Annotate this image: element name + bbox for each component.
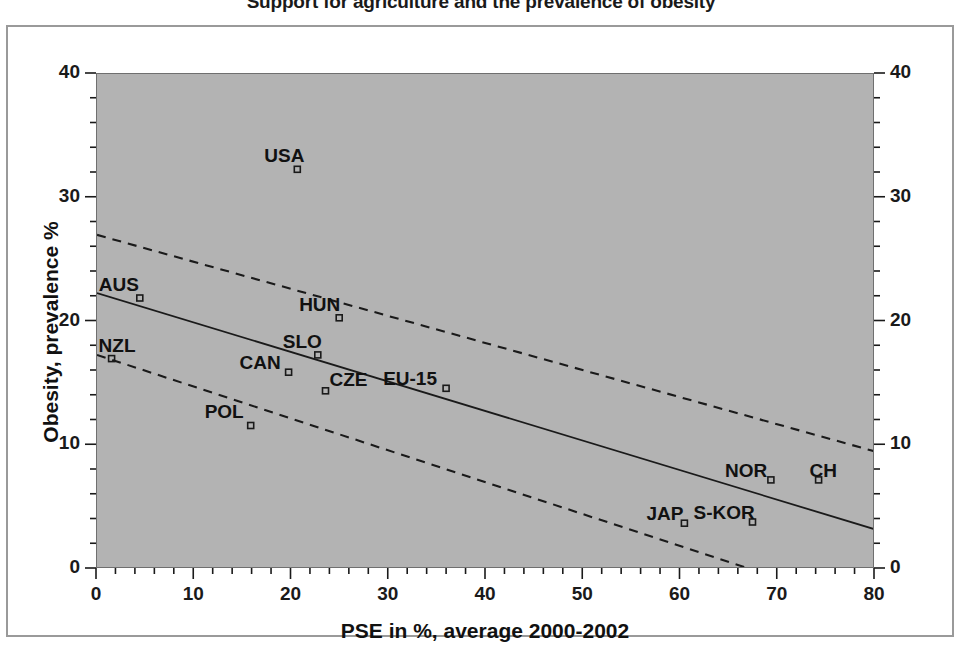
point-label-cze: CZE	[330, 370, 368, 389]
x-tick-label-40: 40	[460, 583, 510, 605]
data-point-hun[interactable]	[336, 315, 342, 321]
x-axis-title: PSE in %, average 2000-2002	[96, 619, 874, 643]
plot-canvas	[97, 74, 874, 568]
x-tick-label-80: 80	[849, 583, 899, 605]
point-label-aus: AUS	[99, 275, 139, 294]
data-point-usa[interactable]	[294, 166, 300, 172]
point-label-can: CAN	[240, 353, 281, 372]
y-tick-label-right-0: 0	[890, 556, 934, 578]
point-label-eu-15: EU-15	[383, 369, 437, 388]
point-label-ch: CH	[810, 461, 837, 480]
x-tick-label-60: 60	[655, 583, 705, 605]
y-tick-label-right-40: 40	[890, 61, 934, 83]
x-tick-label-50: 50	[557, 583, 607, 605]
x-tick-label-30: 30	[363, 583, 413, 605]
point-label-s-kor: S-KOR	[693, 503, 754, 522]
y-tick-label-left-0: 0	[36, 556, 80, 578]
point-label-usa: USA	[264, 146, 304, 165]
data-point-can[interactable]	[286, 369, 292, 375]
data-point-aus[interactable]	[137, 295, 143, 301]
y-tick-label-right-20: 20	[890, 309, 934, 331]
data-point-eu-15[interactable]	[443, 385, 449, 391]
x-tick-label-70: 70	[752, 583, 802, 605]
data-point-nor[interactable]	[768, 477, 774, 483]
plot-area	[96, 73, 874, 568]
chart-title: Support for agriculture and the prevalen…	[0, 0, 962, 13]
point-label-slo: SLO	[283, 332, 322, 351]
point-label-jap: JAP	[646, 504, 683, 523]
y-tick-label-left-40: 40	[36, 61, 80, 83]
figure-frame: 00101020203030404001020304050607080USAAU…	[6, 25, 954, 637]
x-tick-label-10: 10	[168, 583, 218, 605]
point-label-pol: POL	[205, 402, 244, 421]
y-axis-title: Obesity, prevalence %	[39, 122, 63, 542]
point-label-nzl: NZL	[99, 336, 136, 355]
point-label-nor: NOR	[725, 461, 767, 480]
point-label-hun: HUN	[299, 295, 340, 314]
y-tick-label-right-10: 10	[890, 432, 934, 454]
data-point-slo[interactable]	[315, 352, 321, 358]
chart-figure: Support for agriculture and the prevalen…	[0, 0, 962, 645]
data-point-cze[interactable]	[323, 388, 329, 394]
y-tick-label-right-30: 30	[890, 185, 934, 207]
data-point-pol[interactable]	[248, 423, 254, 429]
x-tick-label-20: 20	[266, 583, 316, 605]
x-tick-label-0: 0	[71, 583, 121, 605]
